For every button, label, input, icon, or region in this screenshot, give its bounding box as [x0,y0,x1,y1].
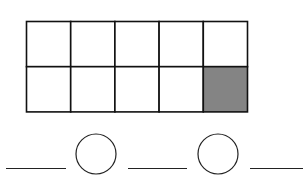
grid-cell [27,67,71,112]
operator-circle-1 [76,134,116,174]
grid-cell-shaded [203,67,247,112]
grid-cell [203,22,247,67]
grid-cell [71,22,115,67]
operator-circle-2 [198,134,238,174]
grid-cell [27,22,71,67]
grid-cell [115,67,159,112]
grid-cell [115,22,159,67]
grid-cell [159,67,203,112]
grid-cell [71,67,115,112]
number-sentence [6,134,303,174]
grid-cell [159,22,203,67]
ten-frame-grid [27,22,248,112]
ten-frame-diagram [0,0,303,181]
